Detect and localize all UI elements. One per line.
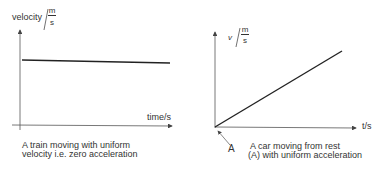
point-a-label: A — [228, 144, 235, 154]
right-unit-num: m — [241, 25, 249, 35]
right-caption-line2: (A) with uniform acceleration — [248, 150, 362, 160]
right-x-label: t/s — [362, 121, 372, 131]
right-unit-den: s — [241, 36, 249, 45]
